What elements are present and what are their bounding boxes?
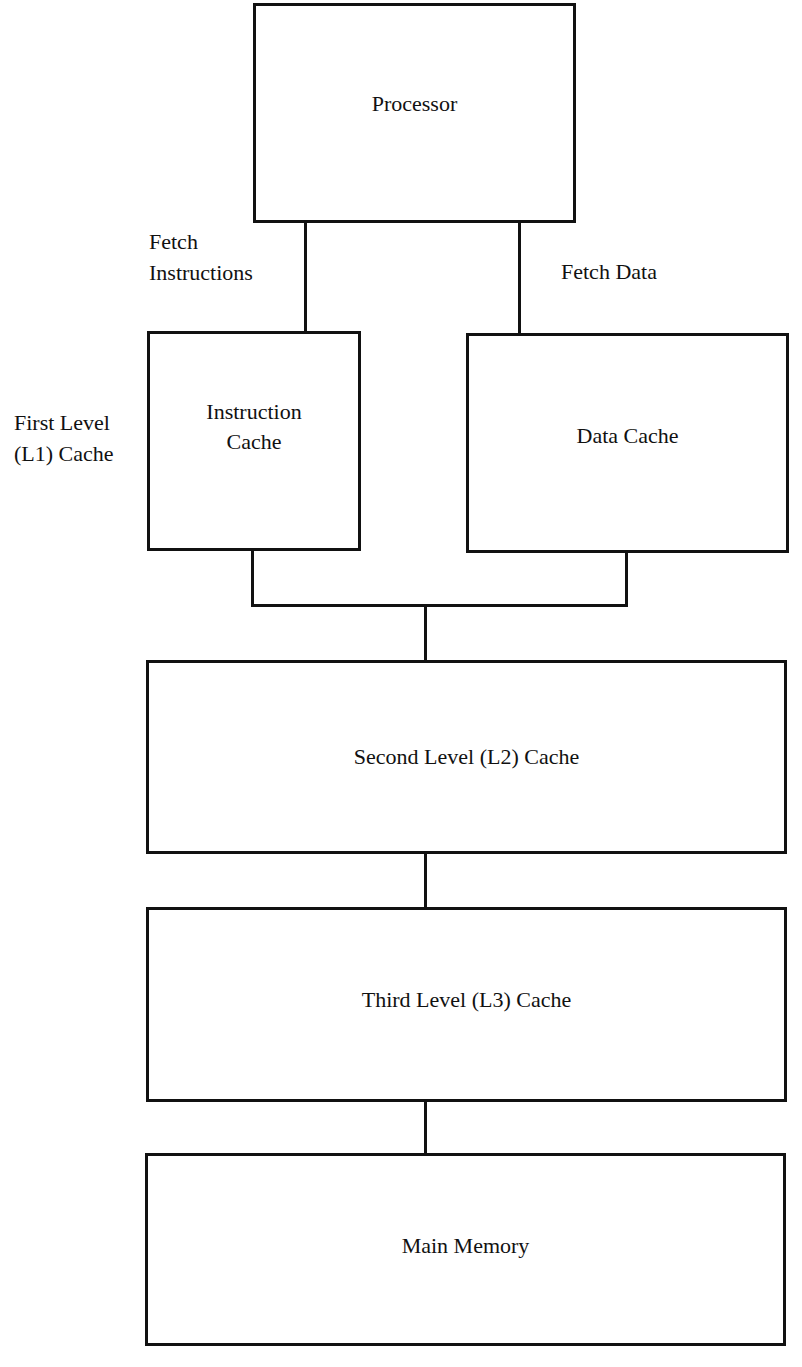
main-memory-box: Main Memory (145, 1153, 786, 1346)
l2-cache-label: Second Level (L2) Cache (354, 742, 579, 772)
processor-label: Processor (372, 89, 458, 119)
instruction-cache-label: Instruction Cache (206, 397, 301, 456)
processor-box: Processor (253, 3, 576, 223)
connector-l2-to-l3 (424, 853, 427, 908)
connector-data-cache-down (625, 552, 628, 607)
data-cache-label: Data Cache (577, 421, 679, 451)
connector-l3-to-main-memory (424, 1101, 427, 1154)
l3-cache-box: Third Level (L3) Cache (146, 907, 787, 1102)
l2-cache-box: Second Level (L2) Cache (146, 660, 787, 854)
connector-instruction-cache-down (251, 550, 254, 607)
connector-processor-to-instruction-cache (304, 222, 307, 332)
instruction-cache-box: Instruction Cache (147, 331, 361, 551)
l1-cache-group-label: First Level (L1) Cache (14, 408, 114, 470)
connector-l1-bus (251, 604, 628, 607)
connector-processor-to-data-cache (518, 222, 521, 334)
fetch-instructions-label: Fetch Instructions (149, 227, 253, 289)
l3-cache-label: Third Level (L3) Cache (362, 985, 572, 1015)
connector-bus-to-l2 (424, 605, 427, 661)
main-memory-label: Main Memory (402, 1231, 530, 1261)
fetch-data-label: Fetch Data (561, 257, 657, 288)
data-cache-box: Data Cache (466, 333, 789, 553)
